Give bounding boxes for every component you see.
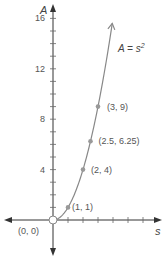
data-point [88, 139, 93, 144]
y-axis-label: A [39, 4, 47, 16]
data-point [96, 104, 101, 109]
y-tick-label: 4 [40, 165, 45, 175]
point-label: (3, 9) [107, 102, 128, 112]
point-label: (1, 1) [72, 202, 93, 212]
point-label: (2, 4) [91, 165, 112, 175]
y-tick-label: 8 [40, 114, 45, 124]
data-points: (0, 0)(1, 1)(2, 4)(2.5, 6.25)(3, 9) [18, 102, 140, 236]
point-label: (2.5, 6.25) [99, 136, 140, 146]
x-axis-label: s [155, 225, 161, 237]
data-point [81, 167, 86, 172]
equation-label: A = s2 [117, 42, 145, 54]
data-point [49, 216, 57, 224]
data-point [66, 205, 71, 210]
y-axis: 481216 A [35, 4, 56, 252]
chart: s 481216 A (0, 0)(1, 1)(2, 4)(2.5, 6.25)… [0, 0, 164, 261]
curve-a-equals-s-squared [53, 23, 112, 220]
point-label: (0, 0) [18, 226, 39, 236]
y-tick-label: 12 [35, 64, 45, 74]
